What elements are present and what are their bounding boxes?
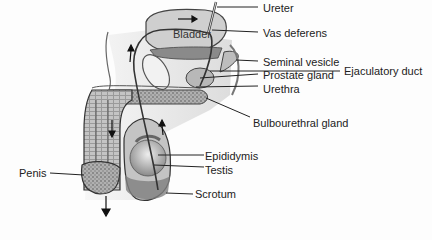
bladder-label: Bladder <box>173 28 211 40</box>
label-bulbourethral-gland: Bulbourethral gland <box>253 117 348 129</box>
label-seminal-vesicle: Seminal vesicle <box>263 56 339 68</box>
label-prostate-gland: Prostate gland <box>263 69 334 81</box>
anatomy-illustration <box>0 0 432 240</box>
label-ejaculatory-duct: Ejaculatory duct <box>344 65 422 77</box>
anatomy-diagram: Bladder Ureter Vas deferens Seminal vesi… <box>0 0 432 240</box>
label-ureter: Ureter <box>263 2 294 14</box>
label-epididymis: Epididymis <box>205 150 258 162</box>
label-vas-deferens: Vas deferens <box>263 27 327 39</box>
label-scrotum: Scrotum <box>195 188 236 200</box>
scrotum-testis <box>124 119 171 201</box>
label-penis: Penis <box>19 167 47 179</box>
label-testis: Testis <box>205 164 233 176</box>
label-urethra: Urethra <box>263 83 300 95</box>
